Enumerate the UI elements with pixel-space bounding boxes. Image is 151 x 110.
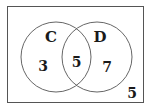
d-only-value: 7 bbox=[102, 59, 112, 75]
intersection-value: 5 bbox=[72, 54, 82, 70]
set-c-label: C bbox=[45, 28, 57, 46]
set-d-label: D bbox=[93, 28, 106, 46]
outside-value: 5 bbox=[127, 85, 137, 101]
c-only-value: 3 bbox=[38, 58, 48, 74]
venn-diagram: C D 3 5 7 5 bbox=[0, 0, 151, 110]
